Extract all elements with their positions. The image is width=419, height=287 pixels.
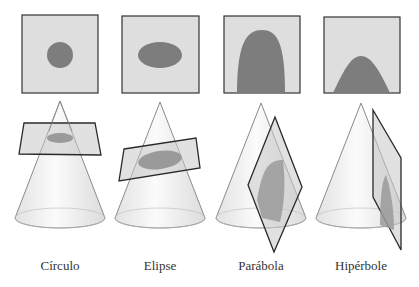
- cone-circle: [15, 101, 105, 228]
- cone-ellipse: [115, 102, 205, 228]
- section-square-circle: [22, 15, 98, 93]
- label-parabola: Parábola: [211, 258, 311, 274]
- label-hyperbola: Hipérbole: [311, 258, 411, 274]
- section-square-ellipse: [122, 16, 199, 93]
- section-square-hyperbola: [324, 17, 400, 93]
- label-ellipse: Elipse: [110, 258, 210, 274]
- conic-sections-figure: [0, 0, 419, 287]
- circle-shape: [47, 42, 73, 68]
- label-circle: Círculo: [10, 258, 110, 274]
- cone-parabola: [216, 103, 306, 252]
- cone-hyperbola: [316, 103, 406, 250]
- section-circle: [47, 133, 73, 143]
- ellipse-shape: [138, 42, 182, 68]
- section-square-parabola: [224, 16, 300, 93]
